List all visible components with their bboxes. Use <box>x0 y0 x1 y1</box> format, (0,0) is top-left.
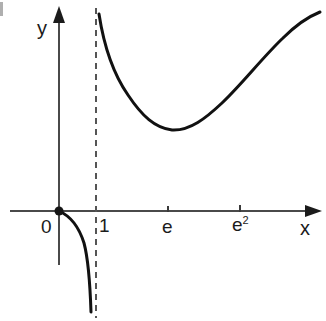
e-squared-base: e <box>232 214 243 235</box>
y-axis-label: y <box>37 18 47 38</box>
e-squared-exponent: 2 <box>243 214 249 226</box>
y-axis-arrowhead <box>53 6 65 23</box>
curve-left-branch <box>59 211 91 312</box>
origin-point-dot <box>55 207 64 216</box>
x-tick-label-e: e <box>162 217 173 236</box>
x-axis-arrowhead <box>305 205 322 217</box>
x-tick-label-zero: 0 <box>41 217 52 236</box>
x-tick-label-one: 1 <box>99 216 110 235</box>
plot-canvas <box>0 0 326 321</box>
x-axis-label: x <box>300 218 310 238</box>
curve-right-branch <box>99 12 320 130</box>
function-graph-figure: 0 1 e e2 x y <box>0 0 326 321</box>
x-tick-label-e-squared: e2 <box>232 215 249 234</box>
